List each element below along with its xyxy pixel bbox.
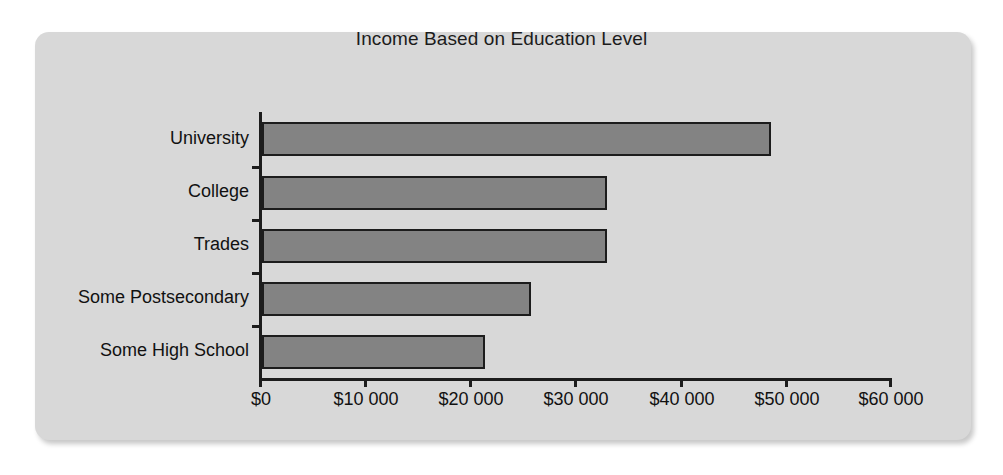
bar-college [262, 176, 607, 210]
x-axis-tick-label-0: $0 [251, 389, 271, 410]
x-axis-tick-label-1: $10 000 [333, 389, 398, 410]
y-axis-tick-3 [252, 325, 260, 328]
y-axis-tick-1 [252, 219, 260, 222]
x-axis-tick-1 [364, 378, 367, 387]
y-axis-tick-0 [252, 166, 260, 169]
y-axis-label-some-high-school: Some High School [0, 340, 249, 361]
y-axis-label-university: University [0, 128, 249, 149]
y-axis-label-college: College [0, 181, 249, 202]
bar-trades [262, 229, 607, 263]
y-axis-label-trades: Trades [0, 234, 249, 255]
x-axis-tick-2 [469, 378, 472, 387]
y-axis-label-some-postsecondary: Some Postsecondary [0, 287, 249, 308]
x-axis-tick-label-2: $20 000 [438, 389, 503, 410]
chart-figure: Income Based on Education Level $0 $10 0… [0, 0, 1003, 475]
plot-area: $0 $10 000 $20 000 $30 000 $40 000 $50 0… [0, 0, 1003, 475]
bar-university [262, 122, 771, 156]
x-axis-tick-label-4: $40 000 [649, 389, 714, 410]
y-axis-tick-2 [252, 272, 260, 275]
bar-some-high-school [262, 335, 485, 369]
x-axis-tick-3 [574, 378, 577, 387]
x-axis-tick-label-3: $30 000 [543, 389, 608, 410]
x-axis-tick-6 [889, 378, 892, 387]
x-axis-tick-5 [785, 378, 788, 387]
bar-some-postsecondary [262, 282, 531, 316]
x-axis-tick-label-5: $50 000 [754, 389, 819, 410]
x-axis-tick-label-6: $60 000 [858, 389, 923, 410]
x-axis-tick-0 [259, 378, 262, 387]
x-axis-tick-4 [680, 378, 683, 387]
